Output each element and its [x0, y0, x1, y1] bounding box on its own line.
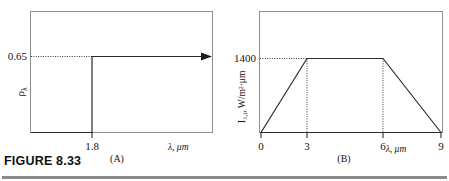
chart-b-yaxis-label-sub: λ,i: [241, 113, 249, 120]
chart-b-yaxis-label: Iλ,i, W/m²·μm: [236, 70, 249, 123]
svg-text:Iλ,i, W/m²·μm: Iλ,i, W/m²·μm: [236, 70, 249, 123]
chart-b-yaxis-label-unit: , W/m²·μm: [237, 70, 247, 113]
chart-b-xtick-label-9: 9: [438, 140, 444, 152]
chart-b-trapezoid-curve: [261, 59, 441, 133]
chart-b-xaxis-label: λ, μm: [385, 144, 407, 154]
chart-b-panel-letter: (B): [337, 153, 350, 165]
figure-caption: FIGURE 8.33: [4, 154, 81, 168]
bottom-divider: [2, 176, 447, 179]
chart-b-frame: [260, 12, 443, 133]
figure-container: 0.65 ρλ 1.8 λ, μm (A): [0, 0, 449, 181]
chart-b-ytick-label-1400: 1400: [234, 52, 257, 64]
chart-b-xtick-label-0: 0: [258, 140, 264, 152]
chart-b-xtick-label-3: 3: [304, 140, 310, 152]
